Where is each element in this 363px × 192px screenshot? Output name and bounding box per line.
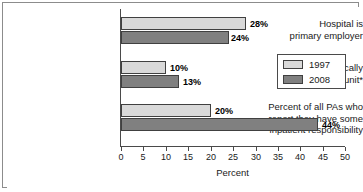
x-tick-15 [188, 147, 189, 151]
bar-value-2008-inpatient-responsibility: 44% [322, 120, 340, 130]
x-tick-20 [211, 147, 212, 151]
legend-swatch-1997-icon [283, 60, 303, 69]
legend-label-1997: 1997 [309, 60, 330, 70]
x-tick-label-20: 20 [201, 152, 221, 163]
bar-value-1997-hospital-primary-employer: 28% [250, 19, 268, 29]
x-tick-40 [300, 147, 301, 151]
x-tick-25 [233, 147, 234, 151]
x-tick-label-40: 40 [290, 152, 310, 163]
x-tick-0 [121, 147, 122, 151]
x-tick-label-5: 5 [133, 152, 153, 163]
legend-label-2008: 2008 [309, 75, 330, 85]
bar-value-2008-hospital-primary-employer: 24% [231, 33, 249, 43]
x-tick-label-15: 15 [178, 152, 198, 163]
x-tick-45 [323, 147, 324, 151]
x-tick-label-0: 0 [111, 152, 131, 163]
bar-1997-inpatient-unit[interactable] [121, 61, 166, 74]
chart-legend: 1997 2008 [277, 54, 346, 89]
legend-entry-2008[interactable]: 2008 [283, 74, 330, 85]
x-tick-30 [256, 147, 257, 151]
x-tick-label-45: 45 [313, 152, 333, 163]
x-tick-label-30: 30 [246, 152, 266, 163]
bar-value-1997-inpatient-unit: 10% [170, 63, 188, 73]
x-tick-50 [345, 147, 346, 151]
x-tick-label-10: 10 [156, 152, 176, 163]
bar-2008-inpatient-responsibility[interactable] [121, 118, 318, 131]
bar-2008-inpatient-unit[interactable] [121, 75, 179, 88]
x-tick-label-35: 35 [268, 152, 288, 163]
legend-swatch-2008-icon [283, 75, 303, 84]
x-axis-title: Percent [120, 167, 345, 178]
x-tick-label-50: 50 [335, 152, 355, 163]
bar-2008-hospital-primary-employer[interactable] [121, 31, 229, 44]
x-tick-35 [278, 147, 279, 151]
bar-value-2008-inpatient-unit: 13% [183, 77, 201, 87]
bar-chart-plot: Hospital is primary employer 28% 24% Wor… [0, 0, 363, 192]
bar-1997-hospital-primary-employer[interactable] [121, 17, 246, 30]
bar-value-1997-inpatient-responsibility: 20% [215, 106, 233, 116]
x-tick-5 [143, 147, 144, 151]
x-tick-10 [166, 147, 167, 151]
legend-entry-1997[interactable]: 1997 [283, 59, 330, 70]
bar-1997-inpatient-responsibility[interactable] [121, 104, 211, 117]
chart-screenshot: Hospital is primary employer 28% 24% Wor… [0, 0, 363, 192]
x-tick-label-25: 25 [223, 152, 243, 163]
